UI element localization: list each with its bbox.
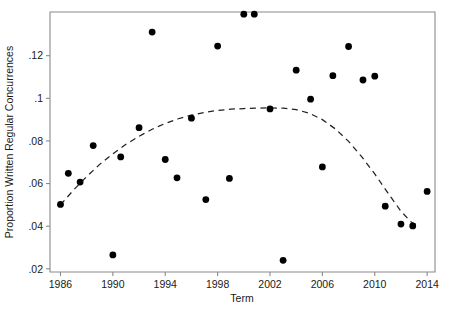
x-tick-label: 2014 bbox=[415, 278, 439, 290]
data-point bbox=[162, 156, 169, 163]
data-point bbox=[136, 124, 143, 131]
data-point bbox=[398, 221, 405, 228]
data-point bbox=[267, 106, 274, 113]
y-tick-label: .08 bbox=[28, 135, 43, 147]
data-point bbox=[424, 188, 431, 195]
data-point bbox=[117, 154, 124, 161]
data-point bbox=[226, 175, 233, 182]
data-point bbox=[240, 11, 247, 18]
data-point bbox=[57, 201, 64, 208]
data-point bbox=[307, 96, 314, 103]
data-point bbox=[202, 196, 209, 203]
x-tick-label: 1990 bbox=[101, 278, 125, 290]
y-axis-label: Proportion Written Regular Concurrences bbox=[3, 46, 15, 238]
data-point bbox=[174, 174, 181, 181]
data-point bbox=[149, 29, 156, 36]
data-point bbox=[371, 73, 378, 80]
data-point bbox=[65, 170, 72, 177]
x-axis-ticks: 19861990199419982002200620102014 bbox=[49, 272, 439, 290]
plot-frame bbox=[50, 12, 435, 272]
data-point bbox=[329, 72, 336, 79]
data-point bbox=[188, 115, 195, 122]
x-tick-label: 2002 bbox=[258, 278, 282, 290]
data-point bbox=[109, 252, 116, 259]
x-tick-label: 1986 bbox=[49, 278, 73, 290]
y-tick-label: .06 bbox=[28, 177, 43, 189]
data-point bbox=[77, 179, 84, 186]
data-point bbox=[360, 77, 367, 84]
data-point bbox=[345, 43, 352, 50]
data-point bbox=[214, 43, 221, 50]
scatter-plot: .02.04.06.08.1.12 1986199019941998200220… bbox=[0, 0, 451, 309]
y-axis-ticks: .02.04.06.08.1.12 bbox=[28, 49, 50, 274]
y-tick-label: .02 bbox=[28, 263, 43, 275]
y-tick-label: .04 bbox=[28, 220, 43, 232]
x-tick-label: 2010 bbox=[363, 278, 387, 290]
data-point bbox=[409, 223, 416, 230]
x-axis-label: Term bbox=[230, 292, 254, 304]
data-point bbox=[90, 142, 97, 149]
chart-figure: .02.04.06.08.1.12 1986199019941998200220… bbox=[0, 0, 451, 309]
data-point bbox=[319, 164, 326, 171]
data-points bbox=[57, 11, 430, 264]
x-tick-label: 1998 bbox=[206, 278, 230, 290]
data-point bbox=[293, 67, 300, 74]
y-tick-label: .12 bbox=[28, 49, 43, 61]
data-point bbox=[280, 257, 287, 264]
y-tick-label: .1 bbox=[34, 92, 43, 104]
x-tick-label: 1994 bbox=[154, 278, 178, 290]
x-tick-label: 2006 bbox=[311, 278, 335, 290]
trend-line bbox=[60, 108, 419, 226]
data-point bbox=[382, 203, 389, 210]
data-point bbox=[251, 11, 258, 18]
quadratic-fit-curve bbox=[60, 108, 419, 226]
